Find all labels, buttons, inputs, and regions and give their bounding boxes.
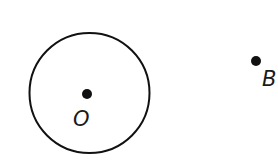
point-b-dot [251, 56, 261, 66]
point-b-label: B [262, 67, 276, 91]
point-o-label: O [73, 107, 90, 131]
point-o-dot [82, 89, 92, 99]
geometry-diagram: O B [0, 0, 278, 166]
